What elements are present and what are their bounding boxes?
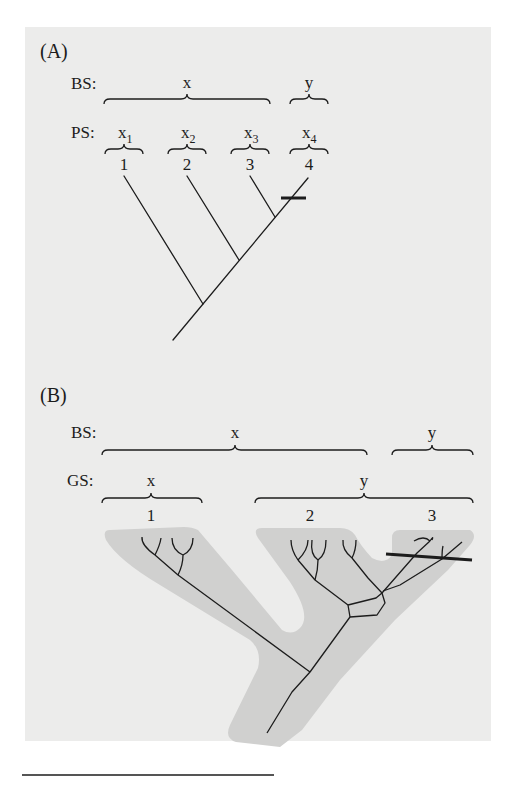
- panel-b-gs-label: GS:: [67, 471, 93, 490]
- ps-label-x2: x2: [181, 123, 196, 146]
- tree-a-branch-3: [250, 176, 275, 217]
- tree-a-branch-2: [187, 176, 239, 260]
- panel-a-bs-label: BS:: [71, 74, 97, 93]
- panel-a-tree: [124, 176, 308, 340]
- panel-b-gs-y: y: [360, 471, 369, 490]
- ps-label-x3: x3: [244, 123, 259, 146]
- panel-b-taxon-1: 1: [147, 506, 156, 525]
- panel-a-bs-y: y: [305, 73, 314, 92]
- panel-b-bs-x: x: [231, 423, 240, 442]
- panel-a-taxon-3: 3: [246, 155, 255, 174]
- ps-label-x4: x4: [302, 123, 317, 146]
- tree-a-backbone: [173, 178, 308, 340]
- panel-b-label: (B): [40, 384, 67, 407]
- panel-b-gs-x: x: [147, 471, 156, 490]
- brace-gs-x: [102, 493, 202, 503]
- panel-b-bs-label: BS:: [71, 423, 97, 442]
- footnote-rule: [22, 774, 274, 776]
- panel-b-gs-braces: [102, 493, 473, 503]
- panel-a-ps-label: PS:: [71, 123, 95, 142]
- phylogeny-figure: (A) BS: PS: x y x1 x2 x3 x4 1 2 3 4 (B) …: [0, 0, 506, 791]
- panel-b-taxon-2: 2: [306, 506, 315, 525]
- panel-a-taxon-4: 4: [305, 155, 314, 174]
- panel-a-ps-braces: [105, 144, 328, 154]
- panel-b-bs-braces: [102, 445, 473, 455]
- brace-gs-y: [255, 493, 473, 503]
- panel-a-bs-braces: [104, 94, 328, 104]
- ps-label-x1: x1: [118, 123, 133, 146]
- brace-bs-y: [392, 445, 473, 455]
- panel-a-taxon-2: 2: [183, 155, 192, 174]
- panel-b-bs-y: y: [428, 423, 437, 442]
- panel-a-ps-labels: x1 x2 x3 x4: [118, 123, 317, 146]
- brace-bs-x: [104, 94, 270, 104]
- tree-a-branch-1: [124, 176, 203, 304]
- panel-b-taxon-3: 3: [428, 506, 437, 525]
- brace-bs-x: [102, 445, 367, 455]
- panel-a-taxon-1: 1: [120, 155, 129, 174]
- panel-a-bs-x: x: [183, 73, 192, 92]
- brace-bs-y: [290, 94, 328, 104]
- panel-a-label: (A): [40, 40, 68, 63]
